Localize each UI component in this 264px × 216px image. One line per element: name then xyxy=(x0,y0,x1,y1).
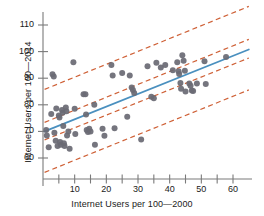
x-tick-label: 60 xyxy=(220,184,246,194)
data-point xyxy=(182,68,188,74)
data-point xyxy=(110,73,116,79)
data-point xyxy=(202,58,208,64)
data-point xyxy=(101,133,107,139)
data-point xyxy=(131,90,137,96)
data-point xyxy=(194,81,200,87)
data-point xyxy=(124,114,130,120)
band-line xyxy=(45,58,249,140)
y-axis-title: Internet Users per 100—2014 xyxy=(23,22,33,182)
data-point xyxy=(72,106,78,112)
data-point xyxy=(83,111,89,117)
data-point xyxy=(92,142,98,148)
data-point xyxy=(127,73,133,79)
x-axis-title: Internet Users per 100—2000 xyxy=(0,199,264,209)
data-point xyxy=(63,108,69,114)
data-point xyxy=(65,128,71,134)
data-point xyxy=(151,95,157,101)
x-tick-label: 50 xyxy=(188,184,214,194)
data-point xyxy=(145,63,151,69)
data-point xyxy=(91,102,97,108)
data-point xyxy=(153,60,159,66)
data-points xyxy=(43,52,229,151)
data-point xyxy=(48,111,54,117)
data-point xyxy=(44,132,50,138)
confidence-band-lines xyxy=(45,6,249,172)
data-point xyxy=(108,62,114,68)
data-point xyxy=(53,106,59,112)
data-point xyxy=(119,70,125,76)
data-point xyxy=(62,143,68,149)
data-point xyxy=(177,80,183,86)
data-point xyxy=(51,130,57,136)
data-point xyxy=(203,81,209,87)
data-point xyxy=(112,125,118,131)
data-point xyxy=(183,89,189,95)
scatter-chart: 60708090100110 102030405060 Internet Use… xyxy=(0,0,264,216)
data-point xyxy=(170,67,176,73)
data-point xyxy=(70,59,76,65)
data-point xyxy=(43,127,49,133)
data-point xyxy=(138,136,144,142)
data-point xyxy=(72,131,78,137)
data-point xyxy=(162,62,168,68)
data-point xyxy=(174,59,180,65)
x-tick-label: 30 xyxy=(125,184,151,194)
data-point xyxy=(176,71,182,77)
data-point xyxy=(179,52,185,58)
data-point xyxy=(67,146,73,152)
data-point xyxy=(100,126,106,132)
band-line xyxy=(45,6,249,89)
data-point xyxy=(181,58,187,64)
x-tick-label: 10 xyxy=(62,184,88,194)
data-point xyxy=(60,123,66,129)
data-point xyxy=(82,91,88,97)
data-point xyxy=(190,88,196,94)
data-point xyxy=(223,54,229,60)
data-point xyxy=(46,144,52,150)
x-tick-label: 20 xyxy=(93,184,119,194)
x-tick-label: 40 xyxy=(157,184,183,194)
data-point xyxy=(51,74,57,80)
data-point xyxy=(88,128,94,134)
